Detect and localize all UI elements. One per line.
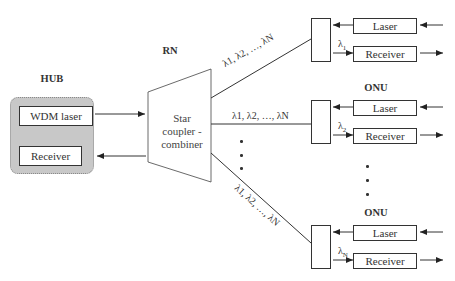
onu-2-wavelength: λ2	[338, 120, 346, 134]
hub-title: HUB	[22, 73, 82, 84]
ellipsis-dot	[240, 140, 243, 143]
rn-title: RN	[150, 45, 190, 56]
onu-1-wavelength: λ1	[338, 38, 346, 52]
onu-2-laser: Laser	[353, 100, 417, 116]
ellipsis-dot	[366, 179, 369, 182]
hub-receiver: Receiver	[19, 146, 82, 166]
link-label-middle: λ1, λ2, …, λN	[232, 110, 289, 121]
onu-1-demux	[311, 18, 331, 62]
hub-wdm-laser: WDM laser	[19, 106, 93, 126]
onu-1-laser: Laser	[353, 18, 417, 34]
star-coupler-label: Star coupler - combiner	[152, 112, 212, 151]
onu-2-receiver: Receiver	[353, 128, 417, 144]
coupler-line-3: combiner	[152, 138, 212, 151]
onu-n-demux	[311, 225, 331, 269]
fiber-onu-n	[211, 153, 311, 243]
ellipsis-dot	[240, 167, 243, 170]
onu-2-title: ONU	[356, 82, 396, 93]
onu-n-wavelength: λN	[338, 245, 348, 259]
onu-n-laser: Laser	[353, 225, 417, 241]
onu-n-receiver: Receiver	[353, 253, 417, 269]
onu-2-demux	[311, 100, 331, 144]
coupler-line-2: coupler -	[152, 125, 212, 138]
coupler-line-1: Star	[152, 112, 212, 125]
ellipsis-dot	[366, 165, 369, 168]
onu-1-receiver: Receiver	[353, 46, 417, 62]
ellipsis-dot	[366, 193, 369, 196]
onu-n-title: ONU	[356, 207, 396, 218]
ellipsis-dot	[240, 154, 243, 157]
